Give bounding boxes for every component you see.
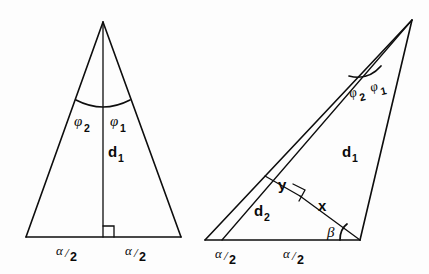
right-apex-angle-arc	[349, 66, 381, 77]
figure-root: φ 2 φ 1 d 1 α / 2 α / 2	[0, 0, 429, 274]
right-triangle-right-side	[360, 20, 412, 240]
right-triangle-group: φ 2 φ 1 d 1 y d 2 x β	[205, 20, 412, 267]
left-alpha-left-denominator: 2	[70, 250, 77, 264]
left-triangle-group: φ 2 φ 1 d 1 α / 2 α / 2	[26, 22, 181, 264]
left-d1-symbol: d	[108, 143, 117, 160]
right-triangle-cevian	[222, 20, 412, 240]
right-phi2-subscript: 2	[358, 90, 367, 103]
right-d1-symbol: d	[342, 143, 351, 160]
left-phi1-symbol: φ	[110, 113, 118, 129]
left-alpha-half-right: α / 2	[125, 243, 146, 264]
right-phi2-label: φ 2	[347, 82, 366, 105]
left-phi1-subscript: 1	[120, 122, 126, 134]
right-phi1-symbol: φ	[368, 78, 379, 94]
right-alpha-half-left: α / 2	[215, 246, 236, 267]
right-alpha-left-denominator: 2	[229, 253, 236, 267]
left-alpha-left-symbol: α	[56, 243, 64, 258]
left-d1-label: d 1	[108, 143, 124, 164]
right-alpha-half-right: α / 2	[283, 246, 304, 267]
right-x-label: x	[318, 197, 327, 214]
left-phi2-subscript: 2	[84, 122, 90, 134]
right-d1-label: d 1	[342, 143, 358, 164]
left-triangle-left-side	[26, 22, 103, 237]
right-alpha-right-symbol: α	[283, 246, 291, 261]
right-triangle-left-side	[205, 20, 412, 240]
left-right-angle-marker	[103, 226, 114, 237]
right-phi2-symbol: φ	[347, 84, 358, 100]
right-alpha-right-denominator: 2	[297, 253, 304, 267]
left-phi2-label: φ 2	[74, 113, 90, 134]
left-phi2-symbol: φ	[74, 113, 82, 129]
left-alpha-right-denominator: 2	[139, 250, 146, 264]
right-phi1-subscript: 1	[379, 84, 388, 97]
right-d1-subscript: 1	[352, 152, 358, 164]
left-phi1-label: φ 1	[110, 113, 126, 134]
left-triangle-right-side	[103, 22, 181, 237]
right-alpha-left-symbol: α	[215, 246, 223, 261]
left-d1-subscript: 1	[118, 152, 124, 164]
left-alpha-half-left: α / 2	[56, 243, 77, 264]
right-d2-subscript: 2	[264, 211, 270, 223]
right-phi1-label: φ 1	[368, 76, 387, 99]
right-d2-symbol: d	[254, 202, 263, 219]
geometry-diagram: φ 2 φ 1 d 1 α / 2 α / 2	[0, 0, 429, 274]
left-alpha-right-symbol: α	[125, 243, 133, 258]
right-d2-label: d 2	[254, 202, 270, 223]
right-y-label: y	[278, 176, 287, 193]
right-beta-label: β	[326, 224, 335, 240]
